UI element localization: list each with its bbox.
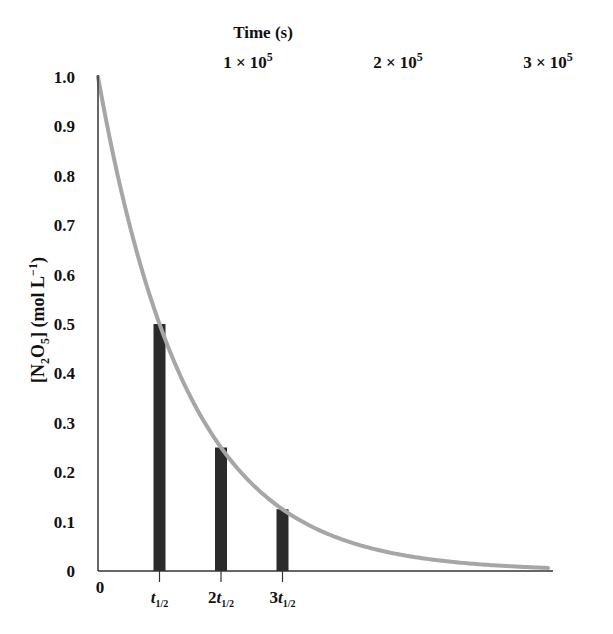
y-tick-label: 0.7 [54, 216, 76, 235]
y-tick-label: 0.9 [54, 117, 75, 136]
y-title-close: ] (mol L [28, 276, 49, 338]
x-bottom-tick-labels: 0t1/22t1/23t1/2 [96, 571, 296, 609]
half-life-chart: 00.10.20.30.40.50.60.70.80.91.0 0t1/22t1… [0, 0, 613, 634]
y-title-mid: O [28, 344, 48, 358]
half-life-bar [154, 324, 166, 571]
x-axis-title: Time (s) [233, 23, 293, 42]
y-tick-label: 1.0 [54, 68, 75, 87]
y-tick-label: 0.1 [54, 513, 75, 532]
half-life-tick-label: t1/2 [151, 588, 169, 609]
y-title-open: [N [28, 364, 48, 383]
y-title-sup: −1 [26, 263, 40, 276]
y-tick-label: 0.2 [54, 463, 75, 482]
y-tick-label: 0.4 [54, 364, 76, 383]
half-life-tick-label: 2t1/2 [208, 588, 234, 609]
y-axis-title: [N2O5] (mol L−1) [26, 257, 52, 383]
y-tick-label: 0.8 [54, 167, 75, 186]
x-top-tick-label: 2 × 105 [373, 50, 423, 72]
y-tick-label: 0 [67, 562, 76, 581]
y-tick-labels: 00.10.20.30.40.50.60.70.80.91.0 [54, 68, 76, 581]
x-top-tick-label: 3 × 105 [523, 50, 573, 72]
y-tick-label: 0.5 [54, 315, 75, 334]
half-life-tick-label: 3t1/2 [269, 588, 295, 609]
half-life-bar [277, 509, 289, 571]
y-title-end: ) [28, 257, 49, 263]
x-top-tick-label: 1 × 105 [223, 50, 273, 72]
x-origin-label: 0 [96, 578, 105, 597]
half-life-bar [215, 448, 227, 572]
y-tick-label: 0.6 [54, 266, 75, 285]
x-top-tick-labels: 1 × 1052 × 1053 × 105 [223, 50, 573, 72]
y-tick-label: 0.3 [54, 414, 75, 433]
